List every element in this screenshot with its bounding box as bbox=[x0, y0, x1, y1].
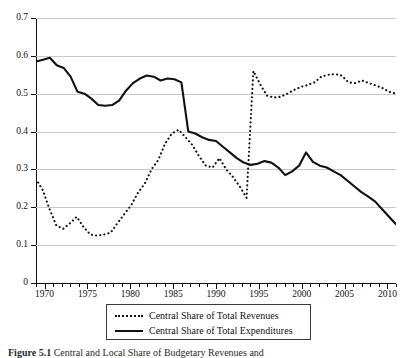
legend-item-expenditures: Central Share of Total Expenditures bbox=[114, 323, 303, 338]
x-tick-mark-minor bbox=[225, 284, 226, 287]
y-tick-label: 0.1 bbox=[0, 240, 28, 250]
x-tick-mark-minor bbox=[285, 284, 286, 287]
legend-label-revenues: Central Share of Total Revenues bbox=[149, 310, 279, 321]
x-tick-label: 2005 bbox=[325, 289, 365, 299]
chart-series-group bbox=[36, 18, 396, 283]
x-tick-mark-minor bbox=[207, 284, 208, 287]
x-tick-mark-minor bbox=[336, 284, 337, 287]
x-tick-mark-minor bbox=[113, 284, 114, 287]
solid-line-icon bbox=[114, 326, 144, 336]
x-tick-label: 1975 bbox=[67, 289, 107, 299]
x-tick-mark-minor bbox=[353, 284, 354, 287]
x-tick-mark-minor bbox=[36, 284, 37, 287]
x-tick-mark-minor bbox=[310, 284, 311, 287]
x-tick-mark-minor bbox=[362, 284, 363, 287]
x-tick-label: 1970 bbox=[25, 289, 65, 299]
y-tick-label: 0.7 bbox=[0, 13, 28, 23]
y-tick-label: 0.2 bbox=[0, 202, 28, 212]
y-tick-label: 0.3 bbox=[0, 164, 28, 174]
x-tick-mark-minor bbox=[62, 284, 63, 287]
x-tick-mark-minor bbox=[79, 284, 80, 287]
chart-legend: Central Share of Total Revenues Central … bbox=[106, 304, 311, 340]
x-tick-mark-minor bbox=[70, 284, 71, 287]
x-tick-mark-minor bbox=[182, 284, 183, 287]
x-tick-label: 1985 bbox=[153, 289, 193, 299]
x-tick-mark-minor bbox=[147, 284, 148, 287]
x-tick-label: 2010 bbox=[367, 289, 402, 299]
figure-caption: Figure 5.1 Central and Local Share of Bu… bbox=[8, 347, 398, 358]
x-tick-mark-minor bbox=[96, 284, 97, 287]
x-tick-mark-minor bbox=[293, 284, 294, 287]
figure-number: Figure 5.1 bbox=[8, 347, 51, 358]
x-tick-mark-minor bbox=[242, 284, 243, 287]
figure-container: 00.10.20.30.40.50.60.7 19701975198019851… bbox=[0, 0, 402, 358]
legend-label-expenditures: Central Share of Total Expenditures bbox=[149, 325, 293, 336]
legend-item-revenues: Central Share of Total Revenues bbox=[114, 308, 303, 323]
x-tick-mark-minor bbox=[327, 284, 328, 287]
x-tick-mark-minor bbox=[250, 284, 251, 287]
x-tick-mark-minor bbox=[396, 284, 397, 287]
x-tick-mark-minor bbox=[370, 284, 371, 287]
x-tick-mark-minor bbox=[53, 284, 54, 287]
x-tick-mark-minor bbox=[276, 284, 277, 287]
x-tick-mark-minor bbox=[190, 284, 191, 287]
x-tick-mark-minor bbox=[122, 284, 123, 287]
series-line-expenditures bbox=[36, 58, 396, 225]
x-tick-label: 2000 bbox=[282, 289, 322, 299]
x-tick-label: 1995 bbox=[239, 289, 279, 299]
x-tick-mark-minor bbox=[199, 284, 200, 287]
x-tick-mark-minor bbox=[379, 284, 380, 287]
x-tick-mark-minor bbox=[139, 284, 140, 287]
x-tick-mark-minor bbox=[319, 284, 320, 287]
y-tick-label: 0.6 bbox=[0, 51, 28, 61]
x-tick-mark-minor bbox=[105, 284, 106, 287]
dotted-line-icon bbox=[114, 311, 144, 321]
x-tick-label: 1980 bbox=[110, 289, 150, 299]
x-tick-mark-minor bbox=[156, 284, 157, 287]
x-tick-mark-minor bbox=[267, 284, 268, 287]
x-tick-label: 1990 bbox=[196, 289, 236, 299]
y-tick-label: 0 bbox=[0, 278, 28, 288]
y-tick-label: 0.4 bbox=[0, 127, 28, 137]
y-tick-label: 0.5 bbox=[0, 89, 28, 99]
x-tick-mark-minor bbox=[165, 284, 166, 287]
series-line-revenues bbox=[36, 71, 396, 236]
x-tick-mark-minor bbox=[233, 284, 234, 287]
figure-caption-text: Central and Local Share of Budgetary Rev… bbox=[54, 347, 264, 358]
